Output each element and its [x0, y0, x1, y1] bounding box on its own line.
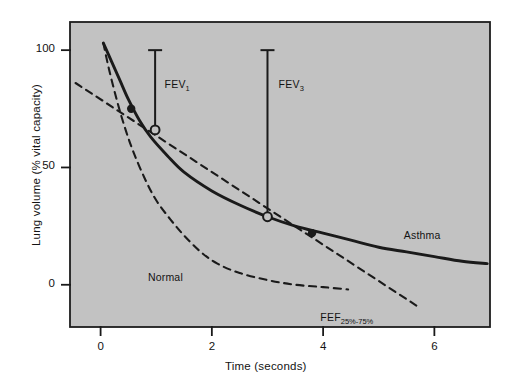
x-tick-label: 6: [419, 340, 449, 352]
plot-background: [70, 22, 490, 327]
series-label-fef25-75-: FEF25%-75%: [320, 311, 373, 326]
y-tick-label: 0: [15, 277, 55, 289]
x-tick-label: 0: [86, 340, 116, 352]
y-tick-label: 100: [15, 42, 55, 54]
fev3-measure-label: FEV3: [279, 78, 304, 93]
fev3-point: [263, 212, 272, 221]
fef-lower-point: [127, 105, 135, 113]
x-tick-label: 4: [308, 340, 338, 352]
x-tick-label: 2: [197, 340, 227, 352]
x-axis-title: Time (seconds): [225, 360, 307, 372]
fef-upper-point: [308, 229, 316, 237]
fev1-measure-label: FEV1: [165, 78, 190, 93]
y-tick-label: 50: [15, 159, 55, 171]
series-label-asthma: Asthma: [404, 229, 441, 241]
series-label-normal: Normal: [148, 271, 183, 283]
chart-plot-area: [0, 0, 524, 387]
fev1-point: [151, 126, 160, 135]
lung-volume-spirometry-chart: Lung volume (% vital capacity) Time (sec…: [0, 0, 524, 387]
